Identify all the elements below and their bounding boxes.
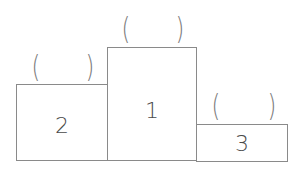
rank-label-second: 2 bbox=[17, 115, 107, 137]
open-paren-third: ( bbox=[211, 91, 220, 121]
open-paren-second: ( bbox=[31, 52, 40, 82]
rank-label-third: 3 bbox=[197, 133, 287, 155]
close-paren-first: ) bbox=[175, 14, 184, 44]
close-paren-second: ) bbox=[85, 52, 94, 82]
open-paren-first: ( bbox=[121, 14, 130, 44]
podium-step-third: 3 bbox=[196, 124, 288, 162]
rank-label-first: 1 bbox=[108, 100, 196, 122]
close-paren-third: ) bbox=[267, 91, 276, 121]
podium-step-second: 2 bbox=[16, 84, 108, 161]
podium-step-first: 1 bbox=[107, 47, 197, 161]
